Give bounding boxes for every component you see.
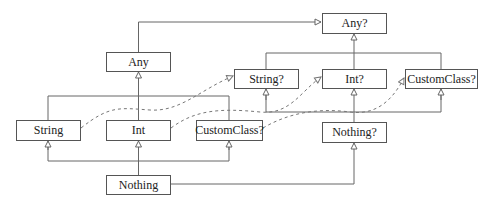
- node-string: String: [16, 120, 81, 141]
- diagram-edges: [0, 0, 482, 208]
- node-customclass-nullable-bottom: CustomClass?: [196, 120, 263, 141]
- node-int: Int: [106, 120, 171, 141]
- node-nothing-nullable: Nothing?: [322, 122, 387, 143]
- node-any: Any: [106, 52, 171, 72]
- node-customclass-nullable-top: CustomClass?: [405, 69, 478, 89]
- node-nothing: Nothing: [106, 175, 171, 195]
- type-hierarchy-diagram: Any? Any String? Int? CustomClass? Strin…: [0, 0, 482, 208]
- edge-any-to-any-nullable: [139, 22, 322, 52]
- node-any-nullable: Any?: [322, 13, 387, 34]
- node-string-nullable: String?: [234, 69, 299, 89]
- node-int-nullable: Int?: [322, 69, 387, 89]
- edge-nothing-to-nothing-nullable: [171, 143, 354, 184]
